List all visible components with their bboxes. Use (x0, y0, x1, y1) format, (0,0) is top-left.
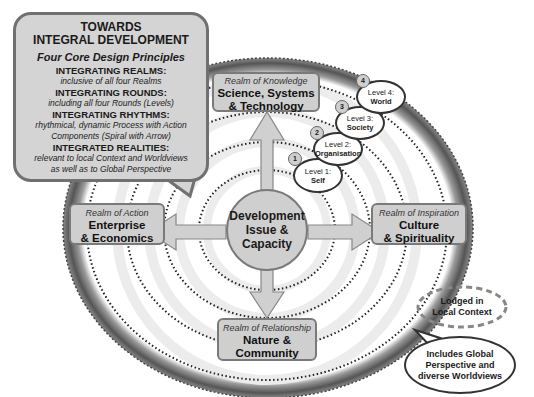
principle-desc: Components (Spiral with Arrow) (16, 131, 206, 142)
level-2-number: 2 (310, 126, 324, 140)
principle-desc: as well as to Global Perspective (16, 164, 206, 175)
global-line-1: Includes Global (406, 349, 514, 360)
local-context-line-2: Local Context (420, 307, 504, 318)
level-4-name: World (358, 97, 404, 106)
level-2-label: Level 2: (315, 140, 361, 149)
principle-heading: INTEGRATING ROUNDS: (16, 87, 206, 98)
level-3-number: 3 (335, 100, 349, 114)
development-issue-center: Development Issue & Capacity (226, 189, 308, 271)
level-4-label: Level 4: (358, 88, 404, 97)
callout-title-2: INTEGRAL DEVELOPMENT (16, 34, 206, 47)
principle-heading: INTEGRATING RHYTHMS: (16, 109, 206, 120)
realm-action-title-1: Enterprise (71, 219, 163, 232)
level-1-label: Level 1: (295, 167, 341, 176)
level-3-name: Society (337, 123, 383, 132)
level-3-label: Level 3: (337, 114, 383, 123)
realm-inspiration-title-1: Culture (373, 219, 465, 232)
local-context-line-1: Lodged in (420, 296, 504, 307)
principle-heading: INTEGRATING REALMS: (16, 65, 206, 76)
realm-relationship-title-2: Community (219, 347, 315, 360)
principle-desc: inclusive of all four Realms (16, 76, 206, 87)
level-1-number: 1 (288, 152, 302, 166)
realm-action-sub: Realm of Action (71, 208, 163, 219)
realm-relationship-title-1: Nature & (219, 334, 315, 347)
realm-inspiration-box: Realm of Inspiration Culture & Spiritual… (371, 203, 467, 245)
callout-subtitle: Four Core Design Principles (16, 51, 206, 63)
realm-relationship-sub: Realm of Relationship (219, 323, 315, 334)
design-principles-callout: TOWARDS INTEGRAL DEVELOPMENT Four Core D… (13, 12, 209, 182)
center-line-2: Issue & (246, 223, 289, 237)
realm-knowledge-box: Realm of Knowledge Science, Systems & Te… (212, 72, 320, 112)
principle-desc: relevant to local Context and Worldviews (16, 153, 206, 164)
global-line-2: Perspective and (406, 360, 514, 371)
realm-knowledge-sub: Realm of Knowledge (214, 76, 318, 87)
principle-heading: INTEGRATED REALITIES: (16, 142, 206, 153)
principle-desc: rhythmical, dynamic Process with Action (16, 120, 206, 131)
level-4-number: 4 (356, 74, 370, 88)
center-line-3: Capacity (242, 237, 292, 251)
level-1-name: Self (295, 176, 341, 185)
principle-desc: including all four Rounds (Levels) (16, 98, 206, 109)
center-line-1: Development (229, 209, 304, 223)
realm-action-title-2: & Economics (71, 232, 163, 245)
realm-inspiration-title-2: & Spirituality (373, 232, 465, 245)
realm-inspiration-sub: Realm of Inspiration (373, 208, 465, 219)
realm-knowledge-title-1: Science, Systems (214, 87, 318, 100)
local-context-label: Lodged in Local Context (420, 288, 504, 326)
realm-knowledge-title-2: & Technology (214, 100, 318, 113)
global-perspective-callout: Includes Global Perspective and diverse … (404, 336, 516, 394)
realm-relationship-box: Realm of Relationship Nature & Community (217, 318, 317, 361)
realm-action-box: Realm of Action Enterprise & Economics (69, 203, 165, 245)
global-line-3: diverse Worldviews (406, 371, 514, 382)
level-2-name: Organisation (315, 149, 361, 158)
